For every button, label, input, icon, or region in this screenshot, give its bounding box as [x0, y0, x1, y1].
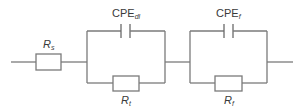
cpe-dl-label: CPEdl	[112, 7, 141, 20]
resistor-rf-body	[215, 76, 242, 91]
cpe-f-label: CPEf	[216, 7, 242, 20]
parallel-block-2: CPEf Rf	[190, 7, 267, 107]
resistor-rf-label: Rf	[224, 94, 235, 107]
resistor-rs: Rs	[36, 38, 61, 70]
equivalent-circuit-diagram: Rs CPEdl Rt CPEf Rf	[0, 0, 303, 112]
parallel-block-1: CPEdl Rt	[87, 7, 165, 107]
resistor-rt-body	[113, 76, 139, 91]
resistor-rt-label: Rt	[121, 94, 132, 107]
resistor-rs-label: Rs	[43, 38, 55, 51]
resistor-rs-body	[36, 54, 61, 70]
